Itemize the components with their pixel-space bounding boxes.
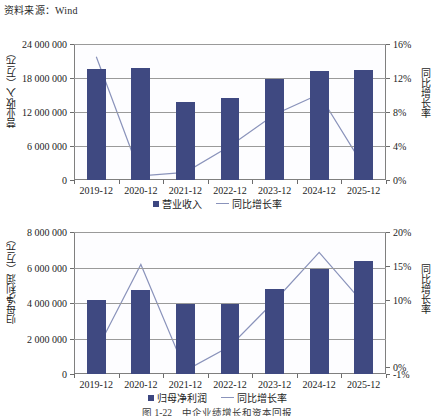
x-axis-tick xyxy=(341,180,342,184)
x-axis-tick xyxy=(208,374,209,378)
y-axis-tick-label: 4 000 000 xyxy=(27,298,67,309)
y-axis-tick xyxy=(70,112,74,113)
y2-axis-tick-label: 16% xyxy=(393,39,411,50)
legend-item-revenue-growth: 同比增长率 xyxy=(216,196,282,211)
y-axis-tick-label: 18 000 000 xyxy=(22,73,67,84)
revenue-plot-area: 06 000 00012 000 00018 000 00024 000 000… xyxy=(74,44,386,180)
gridline xyxy=(74,78,386,79)
y2-axis-tick-label: 8% xyxy=(393,107,406,118)
y-axis-tick xyxy=(70,303,74,304)
x-axis-tick xyxy=(297,374,298,378)
y2-axis-tick xyxy=(386,146,390,147)
x-axis-tick xyxy=(252,374,253,378)
x-axis-tick xyxy=(208,180,209,184)
line-swatch-icon xyxy=(221,397,234,398)
x-axis-tick-label: 2022-12 xyxy=(213,379,246,390)
y2-axis-tick xyxy=(386,232,390,233)
gridline xyxy=(74,232,386,233)
legend-label-revenue: 营业收入 xyxy=(162,196,202,211)
y-axis-tick xyxy=(70,78,74,79)
x-axis-tick xyxy=(252,180,253,184)
gridline xyxy=(74,268,386,269)
y2-axis-tick-label: 12% xyxy=(393,73,411,84)
source-note: 资料来源：Wind xyxy=(4,2,78,17)
line-swatch-icon xyxy=(216,203,229,204)
x-axis-tick xyxy=(341,374,342,378)
legend-label-net-profit: 归母净利润 xyxy=(157,390,207,405)
bar xyxy=(176,102,195,180)
x-axis-tick-label: 2025-12 xyxy=(347,185,380,196)
bar-swatch-icon xyxy=(148,395,154,401)
net-profit-plot-area: 02 000 0004 000 0006 000 0008 000 000-1%… xyxy=(74,232,386,374)
bar xyxy=(131,68,150,180)
y-axis-tick-label: 6 000 000 xyxy=(27,141,67,152)
x-axis-tick-label: 2020-12 xyxy=(124,379,157,390)
legend-label-growth-rate: 同比增长率 xyxy=(232,196,282,211)
revenue-chart: 营业收入（万元） 同比增长率 06 000 00012 000 00018 00… xyxy=(0,30,434,215)
y-axis-tick-label: 8 000 000 xyxy=(27,227,67,238)
x-axis-tick xyxy=(74,180,75,184)
net-profit-y2-axis-title: 同比增长率 xyxy=(417,264,432,314)
x-axis-tick-label: 2021-12 xyxy=(169,185,202,196)
x-axis-tick xyxy=(74,374,75,378)
y2-axis-tick-label: 10% xyxy=(393,294,411,305)
y2-axis-tick-label: 0% xyxy=(393,362,406,373)
legend-label-growth-rate: 同比增长率 xyxy=(237,390,287,405)
y2-axis-tick xyxy=(386,78,390,79)
x-axis-tick-label: 2024-12 xyxy=(302,185,335,196)
y2-axis-tick xyxy=(386,266,390,267)
bar xyxy=(354,261,373,374)
x-axis-tick xyxy=(386,374,387,378)
y2-axis-tick xyxy=(386,300,390,301)
revenue-y2-axis-title: 同比增长率 xyxy=(417,68,432,118)
y2-axis-tick-label: 20% xyxy=(393,227,411,238)
bar xyxy=(87,69,106,180)
y-axis-tick xyxy=(70,44,74,45)
legend-item-net-profit-bar: 归母净利润 xyxy=(148,390,207,405)
figure-caption: 图 1-22 中企业绩增长和资本回报 xyxy=(0,405,434,416)
x-axis-tick-label: 2019-12 xyxy=(80,185,113,196)
x-axis-tick xyxy=(163,374,164,378)
x-axis-tick-label: 2019-12 xyxy=(80,379,113,390)
bar xyxy=(310,71,329,180)
y-axis-tick-label: 6 000 000 xyxy=(27,262,67,273)
x-axis-tick-label: 2022-12 xyxy=(213,185,246,196)
revenue-y-axis-title: 营业收入（万元） xyxy=(4,48,19,128)
bar-swatch-icon xyxy=(153,201,159,207)
x-axis-tick xyxy=(386,180,387,184)
y2-axis-tick-label: 4% xyxy=(393,141,406,152)
net-profit-chart: 归母净利润（万元） 同比增长率 02 000 0004 000 0006 000… xyxy=(0,220,434,415)
x-axis-tick-label: 2020-12 xyxy=(124,185,157,196)
x-axis-tick-label: 2025-12 xyxy=(347,379,380,390)
bar xyxy=(221,304,240,374)
x-axis-tick xyxy=(163,180,164,184)
bar xyxy=(176,304,195,374)
x-axis-tick-label: 2021-12 xyxy=(169,379,202,390)
x-axis-tick-label: 2023-12 xyxy=(258,379,291,390)
y2-axis-tick xyxy=(386,44,390,45)
bar xyxy=(131,290,150,374)
y-axis-tick-label: 24 000 000 xyxy=(22,39,67,50)
bar xyxy=(265,79,284,180)
y-axis-tick-label: 2 000 000 xyxy=(27,333,67,344)
x-axis-tick-label: 2024-12 xyxy=(302,379,335,390)
y2-axis-tick-label: 0% xyxy=(393,175,406,186)
y-axis-tick xyxy=(70,268,74,269)
bar xyxy=(310,269,329,374)
y-axis-tick xyxy=(70,232,74,233)
y-axis-tick-label: 0 xyxy=(62,369,67,380)
bar xyxy=(87,300,106,374)
bar xyxy=(354,70,373,181)
x-axis-tick xyxy=(119,374,120,378)
x-axis-tick xyxy=(297,180,298,184)
gridline xyxy=(74,44,386,45)
y-axis-tick-label: 12 000 000 xyxy=(22,107,67,118)
bar xyxy=(221,98,240,180)
legend-item-revenue-bar: 营业收入 xyxy=(153,196,202,211)
bar xyxy=(265,289,284,374)
legend-item-net-profit-growth: 同比增长率 xyxy=(221,390,287,405)
x-axis-tick-label: 2023-12 xyxy=(258,185,291,196)
y2-axis-tick xyxy=(386,367,390,368)
net-profit-legend: 归母净利润 同比增长率 xyxy=(0,390,434,405)
x-axis-tick xyxy=(119,180,120,184)
